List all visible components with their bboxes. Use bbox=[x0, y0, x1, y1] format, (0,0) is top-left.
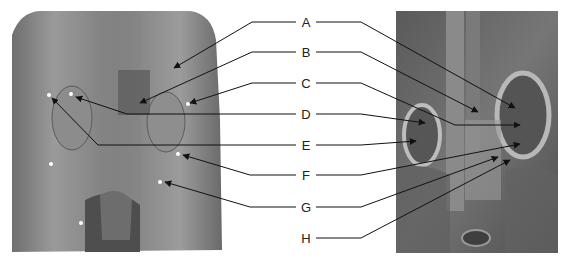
label-g: G bbox=[301, 200, 311, 215]
illus-right-kidney bbox=[497, 73, 549, 157]
right-illustration bbox=[396, 11, 558, 253]
label-a: A bbox=[302, 15, 311, 30]
letter-labels: A B C D E F G H bbox=[298, 13, 314, 248]
right-kidney bbox=[147, 92, 185, 152]
label-d: D bbox=[301, 107, 310, 122]
anatomy-figure: A B C D E F G H bbox=[0, 0, 566, 262]
label-f: F bbox=[302, 168, 310, 183]
illus-left-kidney bbox=[404, 105, 440, 165]
label-b: B bbox=[302, 45, 311, 60]
left-dissection-photo bbox=[12, 11, 222, 252]
label-c: C bbox=[301, 76, 310, 91]
label-h: H bbox=[301, 231, 310, 246]
label-e: E bbox=[302, 138, 311, 153]
